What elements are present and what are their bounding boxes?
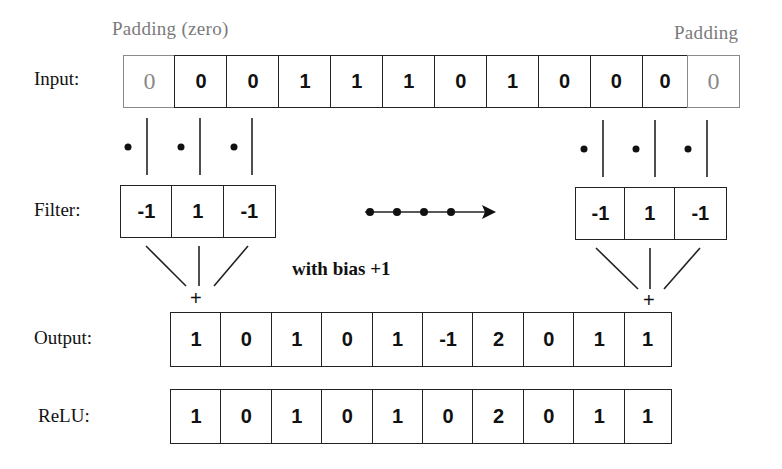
connector-lines [0, 0, 782, 469]
